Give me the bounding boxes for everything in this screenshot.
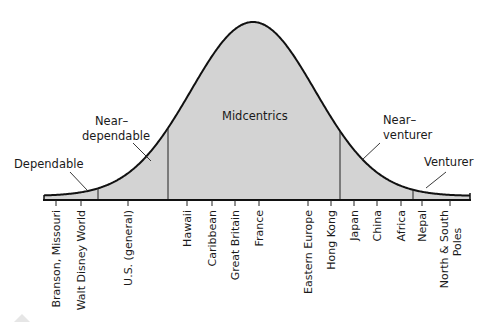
destination-label: Eastern Europe [302,210,315,294]
segment-label-near-venturer-line2: venturer [383,128,433,142]
psychographic-bell-curve-diagram: Dependable Near– dependable Midcentrics … [0,0,488,322]
destination-label: Hawaii [181,210,194,247]
destination-label: Africa [395,210,408,241]
corner-artifact [14,314,30,322]
destination-label: Poles [451,227,464,256]
destination-label: Walt Disney World [75,210,88,310]
destination-label: Caribbean [206,210,219,266]
segment-label-near-dependable-line1: Near– [95,114,128,128]
pointer-near-dependable [133,143,151,161]
pointer-near-venturer [362,143,380,160]
destination-label: China [371,210,384,241]
destination-label: U.S. (general) [122,210,135,286]
segment-label-near-dependable-line2: dependable [82,129,150,143]
segment-label-venturer: Venturer [424,155,474,169]
destination-label: Hong Kong [325,210,338,270]
destination-label: Nepal [416,210,429,242]
destination-label: Japan [348,210,361,242]
segment-label-dependable: Dependable [14,157,84,171]
pointer-dependable [70,172,87,190]
destination-label: Branson, Missouri [50,210,63,308]
segment-label-midcentrics: Midcentrics [222,109,288,123]
destination-label: France [253,210,266,247]
pointer-venturer [426,172,446,188]
destination-label: North & South [438,210,451,288]
destination-label: Great Britain [229,210,242,280]
segment-label-near-venturer-line1: Near– [383,113,416,127]
